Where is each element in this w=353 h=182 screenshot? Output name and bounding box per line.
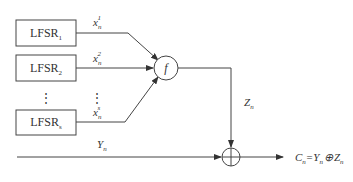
ellipsis-outputs: ⋮ <box>91 91 103 105</box>
label-xs: xns <box>92 104 102 121</box>
diagram-canvas: LFSR1 LFSR2 LFSRs ⋮ ⋮ xn1 xn2 xns f Zn Y… <box>0 0 353 182</box>
lfsr-1-box: LFSR1 <box>16 20 76 46</box>
label-output: Cn=Yn⊕Zn <box>295 151 344 166</box>
line-x1 <box>76 33 158 60</box>
ellipsis-registers: ⋮ <box>40 91 52 105</box>
lfsr-s-label: LFSRs <box>30 115 62 131</box>
line-xs <box>76 77 158 122</box>
label-x2: xn2 <box>92 50 102 67</box>
lfsr-1-label: LFSR1 <box>30 26 63 42</box>
lfsr-2-box: LFSR2 <box>16 55 76 81</box>
combiner-function-f: f <box>154 56 178 80</box>
label-zn: Zn <box>244 96 254 111</box>
label-x1: xn1 <box>92 14 102 31</box>
lfsr-s-box: LFSRs <box>16 110 76 135</box>
label-yn: Yn <box>97 138 107 153</box>
lfsr-2-label: LFSR2 <box>30 61 63 77</box>
xor-operator <box>222 148 240 166</box>
line-zn <box>178 68 231 147</box>
